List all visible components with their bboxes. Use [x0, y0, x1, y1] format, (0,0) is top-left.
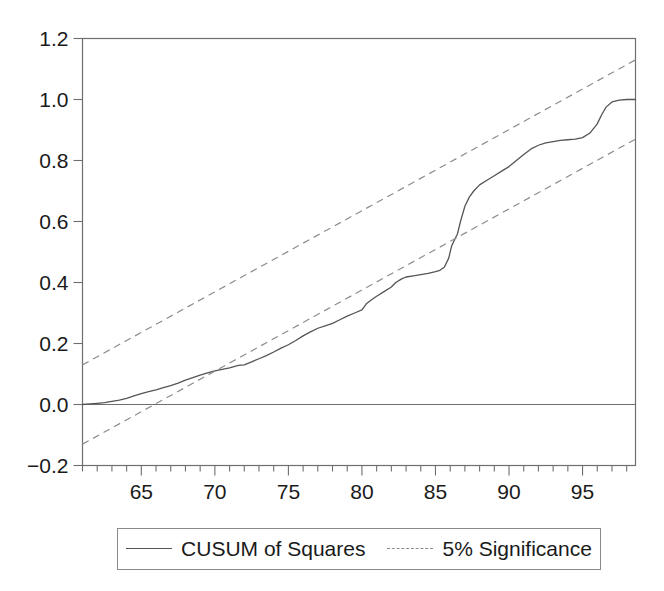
- legend-label-5pct-significance: 5% Significance: [442, 537, 591, 561]
- legend-entry-cusum-of-squares: CUSUM of Squares: [126, 537, 365, 561]
- y-tick-label: 1.2: [0, 27, 69, 51]
- y-tick-label: 0.0: [0, 393, 69, 417]
- series-5pct-significance-lower: [83, 139, 636, 444]
- series-cusum-of-squares: [83, 100, 636, 405]
- legend-label-cusum-of-squares: CUSUM of Squares: [181, 537, 365, 561]
- plot-canvas: [0, 0, 664, 591]
- x-tick-label: 95: [571, 480, 594, 504]
- y-axis-major-ticks: [74, 39, 83, 466]
- y-tick-label: 0.6: [0, 210, 69, 234]
- cusum-of-squares-chart: 1.21.00.80.60.40.20.0−0.2 65707580859095…: [0, 0, 664, 591]
- x-tick-label: 65: [130, 480, 153, 504]
- legend-line-solid-icon: [126, 548, 172, 551]
- series-5pct-significance-upper: [83, 60, 636, 365]
- x-tick-label: 70: [203, 480, 226, 504]
- x-tick-label: 80: [350, 480, 373, 504]
- y-tick-label: 0.4: [0, 271, 69, 295]
- legend-entry-5pct-significance: 5% Significance: [387, 537, 591, 561]
- y-tick-label: 0.2: [0, 332, 69, 356]
- x-tick-label: 90: [497, 480, 520, 504]
- x-tick-label: 75: [277, 480, 300, 504]
- x-axis-minor-ticks: [83, 466, 627, 472]
- y-tick-label: −0.2: [0, 454, 69, 478]
- plot-border: [83, 39, 636, 466]
- y-tick-label: 1.0: [0, 88, 69, 112]
- legend-line-dashed-icon: [387, 548, 433, 551]
- x-axis-major-ticks: [141, 466, 582, 476]
- x-tick-label: 85: [424, 480, 447, 504]
- plot-frame: [83, 39, 636, 466]
- y-tick-label: 0.8: [0, 149, 69, 173]
- chart-legend: CUSUM of Squares 5% Significance: [117, 528, 601, 570]
